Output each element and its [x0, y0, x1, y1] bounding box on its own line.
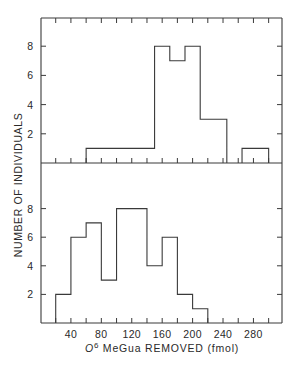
x-tick-label: 120	[122, 328, 141, 340]
y-axis-label: NUMBER OF INDIVIDUALS	[12, 113, 24, 257]
y-tick-label: 2	[27, 288, 33, 300]
y-tick-label: 6	[27, 231, 33, 243]
x-axis-label-o: O	[85, 342, 94, 354]
x-tick-label: 280	[244, 328, 263, 340]
x-tick-label: 160	[153, 328, 172, 340]
y-tick-label: 2	[27, 128, 33, 140]
y-tick-label: 4	[27, 99, 33, 111]
x-tick-label: 200	[183, 328, 202, 340]
y-tick-label: 8	[27, 40, 33, 52]
y-tick-label: 4	[27, 260, 33, 272]
x-tick-label: 40	[65, 328, 77, 340]
histogram-top-outline	[86, 46, 269, 163]
top-panel: 2468	[27, 18, 282, 163]
y-tick-label: 8	[27, 203, 33, 215]
histogram-bottom-outline	[56, 209, 208, 323]
bottom-panel: 24684080120160200240280	[27, 163, 282, 340]
x-axis-label: O6 MeGua REMOVED (fmol)	[85, 341, 239, 354]
x-axis-label-rest: MeGua REMOVED (fmol)	[99, 342, 239, 354]
x-tick-label: 240	[214, 328, 233, 340]
y-tick-label: 6	[27, 69, 33, 81]
histogram-figure: 2468 24684080120160200240280 NUMBER OF I…	[0, 0, 297, 367]
x-tick-label: 80	[95, 328, 107, 340]
